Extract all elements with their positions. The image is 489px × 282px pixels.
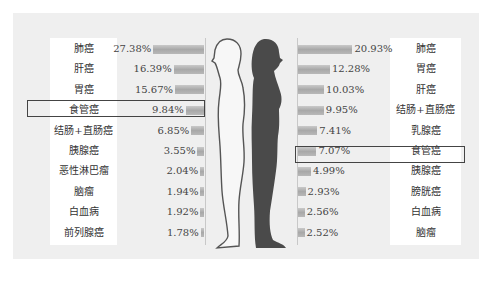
- female-category-label: 肺癌: [390, 40, 461, 58]
- female-highlight-box: [295, 146, 465, 163]
- female-bar: [298, 126, 317, 135]
- male-value-label: 1.94%: [167, 183, 199, 201]
- female-bar: [298, 187, 306, 196]
- male-value-label: 3.55%: [164, 142, 196, 160]
- male-category-label: 结肠+直肠癌: [50, 122, 117, 140]
- male-category-label: 前列腺癌: [50, 224, 117, 242]
- male-bar: [153, 45, 204, 54]
- female-category-label: 结肠+直肠癌: [390, 101, 461, 119]
- female-value-label: 2.52%: [307, 224, 339, 242]
- male-value-label: 1.92%: [167, 203, 199, 221]
- female-value-label: 10.03%: [326, 81, 364, 99]
- male-bar: [200, 187, 204, 196]
- female-value-label: 2.93%: [308, 183, 340, 201]
- female-category-label: 胰腺癌: [390, 162, 461, 180]
- male-bar: [174, 65, 204, 74]
- female-category-label: 白血病: [390, 203, 461, 221]
- male-value-label: 15.67%: [135, 81, 173, 99]
- female-category-label: 脑瘤: [390, 224, 461, 242]
- female-category-label: 胃癌: [390, 60, 461, 78]
- male-highlight-box: [27, 100, 205, 117]
- female-silhouette-icon: [248, 36, 290, 254]
- male-category-label: 肺癌: [50, 40, 117, 58]
- female-value-label: 2.56%: [307, 203, 339, 221]
- male-bar: [191, 126, 204, 135]
- female-value-label: 9.95%: [326, 101, 358, 119]
- male-category-label: 脑瘤: [50, 183, 117, 201]
- male-category-label: 恶性淋巴瘤: [50, 162, 117, 180]
- male-value-label: 16.39%: [134, 60, 172, 78]
- female-bar: [298, 85, 324, 94]
- female-category-label: 肝癌: [390, 81, 461, 99]
- female-value-label: 20.93%: [354, 40, 392, 58]
- female-value-label: 12.28%: [332, 60, 370, 78]
- male-category-label: 胰腺癌: [50, 142, 117, 160]
- female-bar: [298, 167, 311, 176]
- male-bar: [201, 228, 204, 237]
- male-category-label: 肝癌: [50, 60, 117, 78]
- male-bar: [175, 85, 204, 94]
- female-bar: [298, 65, 330, 74]
- male-value-label: 1.78%: [167, 224, 199, 242]
- female-value-label: 4.99%: [313, 162, 345, 180]
- female-bar: [298, 106, 324, 115]
- male-bar: [200, 167, 204, 176]
- female-value-label: 7.41%: [319, 122, 351, 140]
- male-value-label: 27.38%: [113, 40, 151, 58]
- female-bar: [298, 208, 305, 217]
- male-category-label: 白血病: [50, 203, 117, 221]
- female-category-label: 乳腺癌: [390, 122, 461, 140]
- female-category-label: 膀胱癌: [390, 183, 461, 201]
- male-bar: [197, 147, 204, 156]
- male-value-label: 2.04%: [166, 162, 198, 180]
- female-bar: [298, 45, 352, 54]
- male-category-label: 胃癌: [50, 81, 117, 99]
- male-silhouette-icon: [205, 36, 250, 254]
- male-value-label: 6.85%: [158, 122, 190, 140]
- female-bar: [298, 228, 305, 237]
- male-bar: [200, 208, 204, 217]
